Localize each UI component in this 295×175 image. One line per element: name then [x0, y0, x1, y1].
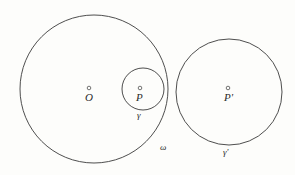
figure-canvas [0, 0, 295, 175]
geometry-figure: O P P' ω γ γ' [0, 0, 295, 175]
center-marker-p-prime [226, 86, 230, 90]
center-marker-o [87, 86, 91, 90]
center-marker-p [138, 86, 142, 90]
curve-label-gamma-prime: γ' [223, 148, 228, 157]
point-label-p: P [136, 92, 143, 103]
point-label-o: O [85, 92, 93, 103]
curve-label-gamma: γ [137, 111, 141, 120]
curve-label-omega: ω [160, 143, 166, 152]
point-label-p-prime: P' [224, 92, 233, 103]
circle-omega [20, 15, 168, 163]
circle-gamma [122, 68, 164, 110]
